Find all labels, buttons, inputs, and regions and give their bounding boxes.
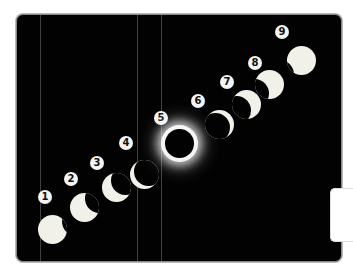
phase-badge-2: 2: [64, 172, 78, 186]
phase-badge-4: 4: [119, 136, 133, 150]
sun-phase-9: [287, 46, 316, 75]
phase-badge-8: 8: [248, 56, 262, 70]
moon-shadow: [85, 193, 99, 213]
eclipse-photo-panel: 1 2 3 4 5 6 7 8 9: [16, 14, 342, 262]
phase-badge-5: 5: [154, 111, 168, 125]
total-eclipse-corona: [165, 129, 194, 158]
scan-line: [161, 15, 162, 261]
moon-shadow: [287, 60, 294, 75]
moon-shadow: [111, 173, 131, 195]
moon-shadow: [205, 113, 230, 139]
sun-phase-4: [130, 160, 159, 189]
scan-line: [137, 15, 138, 261]
phase-badge-7: 7: [220, 75, 234, 89]
sun-phase-3: [102, 173, 131, 202]
sun-phase-8: [255, 70, 284, 99]
phase-badge-6: 6: [191, 94, 205, 108]
sun-phase-1: [38, 215, 67, 244]
sun-phase-6: [205, 110, 234, 139]
side-tab[interactable]: [330, 188, 353, 242]
phase-badge-3: 3: [90, 156, 104, 170]
moon-shadow: [255, 79, 269, 99]
moon-shadow: [62, 215, 67, 236]
phase-badge-1: 1: [38, 190, 52, 204]
sun-phase-2: [70, 193, 99, 222]
moon-shadow: [134, 160, 159, 186]
moon-shadow: [232, 96, 251, 119]
phase-badge-9: 9: [275, 25, 289, 39]
